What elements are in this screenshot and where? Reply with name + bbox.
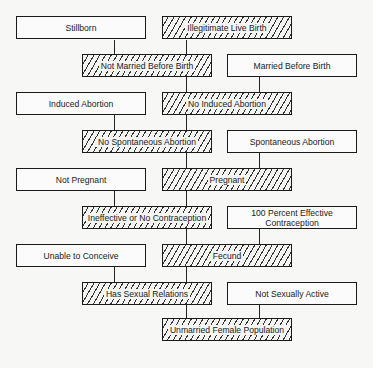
box-label: Not Married Before Birth: [99, 61, 196, 71]
box-label: Not Sexually Active: [255, 289, 329, 299]
connector: [186, 40, 187, 54]
connector: [186, 305, 187, 318]
box-label: Pregnant: [208, 175, 247, 185]
box-fecund: Fecund: [162, 244, 292, 267]
box-married-before-birth: Married Before Birth: [227, 54, 357, 77]
connector: [259, 153, 260, 168]
box-induced-abortion: Induced Abortion: [16, 92, 146, 115]
box-label: Fecund: [211, 251, 244, 261]
box-ineffective-or-no-contraception: Ineffective or No Contraception: [82, 206, 212, 229]
box-label: Married Before Birth: [254, 61, 331, 71]
connector: [186, 115, 187, 130]
box-spontaneous-abortion: Spontaneous Abortion: [227, 130, 357, 153]
box-pregnant: Pregnant: [162, 168, 292, 191]
connector: [114, 191, 115, 206]
box-label: No Spontaneous Abortion: [96, 137, 198, 147]
box-label: Has Sexual Relations: [104, 289, 190, 299]
connector: [186, 77, 187, 92]
box-label: Unable to Conceive: [43, 251, 118, 261]
box-no-spontaneous-abortion: No Spontaneous Abortion: [82, 130, 212, 153]
connector: [114, 40, 115, 54]
box-has-sexual-relations: Has Sexual Relations: [82, 282, 212, 305]
box-100-percent-effective-contraception: 100 Percent Effective Contraception: [227, 206, 357, 229]
connector: [186, 191, 187, 206]
connector: [114, 115, 115, 130]
box-label: 100 Percent Effective Contraception: [247, 208, 337, 228]
box-not-pregnant: Not Pregnant: [16, 168, 146, 191]
connector: [114, 267, 115, 282]
box-label: Unmarried Female Population: [168, 325, 286, 335]
box-label: Spontaneous Abortion: [250, 137, 335, 147]
box-no-induced-abortion: No Induced Abortion: [162, 92, 292, 115]
box-label: Stillborn: [65, 23, 96, 33]
box-stillborn: Stillborn: [16, 16, 146, 39]
box-not-sexually-active: Not Sexually Active: [227, 282, 357, 305]
box-unable-to-conceive: Unable to Conceive: [16, 244, 146, 267]
box-unmarried-female-population: Unmarried Female Population: [162, 318, 292, 341]
box-illegitimate-live-birth: Illegitimate Live Birth: [162, 16, 292, 39]
box-label: Illegitimate Live Birth: [185, 23, 268, 33]
box-label: Ineffective or No Contraception: [86, 213, 208, 223]
connector: [186, 229, 187, 244]
box-label: Not Pregnant: [56, 175, 107, 185]
box-label: Induced Abortion: [49, 99, 114, 109]
connector: [259, 77, 260, 92]
connector: [259, 305, 260, 318]
box-label: No Induced Abortion: [186, 99, 268, 109]
connector: [186, 267, 187, 282]
connector: [186, 153, 187, 168]
box-not-married-before-birth: Not Married Before Birth: [82, 54, 212, 77]
connector: [259, 229, 260, 244]
